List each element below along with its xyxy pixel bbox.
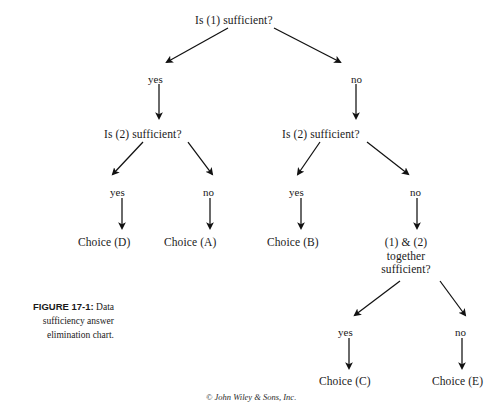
arrow-root-to-right: [274, 28, 340, 62]
node-root: Is (1) sufficient?: [195, 14, 273, 28]
edge-label-yes-root: yes: [148, 73, 163, 85]
arrow-right-to-yes3: [298, 142, 320, 174]
arrow-layer: [0, 0, 499, 419]
arrow-root-to-left: [167, 28, 228, 62]
figure-caption-title: FIGURE 17-1:: [33, 301, 94, 312]
edge-label-yes-right: yes: [289, 186, 304, 198]
edge-label-yes-together: yes: [338, 326, 353, 338]
node-left-is-2-sufficient: Is (2) sufficient?: [104, 128, 182, 142]
arrow-right-to-no3: [367, 142, 408, 174]
node-together-sufficient: (1) & (2) together sufficient?: [368, 236, 444, 277]
copyright-notice: © John Wiley & Sons, Inc.: [206, 392, 296, 402]
arrow-left-to-no2: [188, 142, 212, 174]
arrow-left-to-yes2: [113, 142, 143, 174]
figure-container: Is (1) sufficient? Is (2) sufficient? Is…: [0, 0, 499, 419]
node-choice-d: Choice (D): [78, 236, 130, 250]
figure-caption: FIGURE 17-1: Data sufficiency answer eli…: [22, 300, 114, 342]
node-choice-a: Choice (A): [164, 236, 216, 250]
edge-label-yes-left: yes: [110, 186, 125, 198]
node-choice-c: Choice (C): [319, 375, 371, 389]
arrow-together-to-no4: [440, 281, 465, 315]
node-right-is-2-sufficient: Is (2) sufficient?: [282, 128, 360, 142]
edge-label-no-left: no: [203, 186, 214, 198]
edge-label-no-right: no: [410, 186, 421, 198]
arrow-together-to-yes4: [355, 281, 400, 315]
edge-label-no-root: no: [351, 73, 362, 85]
edge-label-no-together: no: [455, 326, 466, 338]
node-choice-e: Choice (E): [432, 375, 483, 389]
node-choice-b: Choice (B): [267, 236, 319, 250]
